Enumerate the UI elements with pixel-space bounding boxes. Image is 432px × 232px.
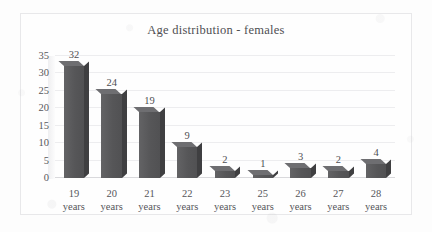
bar-value-label: 4: [373, 147, 378, 158]
y-axis-tick-label: 20: [39, 102, 50, 113]
bar-front-face: [366, 164, 386, 178]
bar-top-face: [96, 89, 122, 94]
bar-group: 125years: [244, 56, 282, 178]
bar-top-face: [58, 61, 84, 66]
bar-group: 223years: [206, 56, 244, 178]
bar-top-face: [285, 163, 311, 168]
bar-front-face: [328, 171, 348, 178]
y-axis-tick-label: 35: [39, 50, 50, 61]
bar-side-face: [349, 167, 354, 178]
bar-front-face: [215, 171, 235, 178]
bar-group: 922years: [168, 56, 206, 178]
bar-top-face: [360, 159, 386, 164]
y-axis-tick-label: 30: [39, 67, 50, 78]
bar-top-face: [171, 142, 197, 147]
y-axis-tick-label: 15: [39, 119, 50, 130]
bar-front-face: [177, 147, 197, 178]
bar[interactable]: 4: [366, 164, 386, 178]
y-axis-tick-label: 10: [39, 137, 50, 148]
bar-front-face: [253, 175, 273, 178]
x-axis-tick-label: 23years: [214, 187, 236, 214]
x-axis-tick-label: 19years: [63, 187, 85, 214]
bar[interactable]: 1: [253, 175, 273, 178]
bar-side-face: [273, 170, 278, 178]
bar[interactable]: 24: [101, 94, 121, 178]
bar-top-face: [209, 166, 235, 171]
bar-side-face: [197, 142, 202, 178]
bar-group: 326years: [282, 56, 320, 178]
bar-group: 428years: [357, 56, 395, 178]
bar-front-face: [139, 112, 159, 178]
bar[interactable]: 2: [215, 171, 235, 178]
bar-value-label: 2: [336, 154, 341, 165]
bar-side-face: [122, 90, 127, 178]
bar[interactable]: 3: [290, 168, 310, 178]
bar-top-face: [247, 170, 273, 175]
bar-side-face: [386, 160, 391, 178]
bar-side-face: [160, 107, 165, 178]
x-axis-tick-label: 21years: [138, 187, 160, 214]
x-axis-tick-label: 28years: [365, 187, 387, 214]
chart-title: Age distribution - females: [21, 23, 411, 38]
chart-frame: Age distribution - females 0510152025303…: [20, 13, 412, 215]
bar-group: 2420years: [93, 56, 131, 178]
bar-front-face: [101, 94, 121, 178]
bar-side-face: [311, 163, 316, 178]
bar-group: 3219years: [55, 56, 93, 178]
bar[interactable]: 32: [64, 66, 84, 178]
x-axis-tick-label: 27years: [327, 187, 349, 214]
bar-value-label: 1: [260, 158, 265, 169]
bar-top-face: [323, 166, 349, 171]
y-axis-tick-label: 25: [39, 84, 50, 95]
bar-value-label: 9: [185, 130, 190, 141]
bar-group: 227years: [319, 56, 357, 178]
bar-value-label: 24: [106, 77, 117, 88]
y-axis-tick-label: 0: [44, 172, 49, 183]
plot-area: 05101520253035 3219years2420years1921yea…: [55, 56, 395, 178]
y-axis-tick-label: 5: [44, 154, 49, 165]
bar-value-label: 3: [298, 151, 303, 162]
bar-group: 1921years: [131, 56, 169, 178]
bar-side-face: [235, 167, 240, 178]
bar-top-face: [134, 107, 160, 112]
x-axis-tick-label: 25years: [252, 187, 274, 214]
plot-floor-shading: [48, 56, 55, 179]
bar-front-face: [290, 168, 310, 178]
bar-value-label: 32: [69, 49, 80, 60]
bar[interactable]: 2: [328, 171, 348, 178]
x-axis-tick-label: 26years: [289, 187, 311, 214]
x-axis-tick-label: 22years: [176, 187, 198, 214]
bar[interactable]: 19: [139, 112, 159, 178]
bar-series: 3219years2420years1921years922years223ye…: [55, 56, 395, 178]
bar-front-face: [64, 66, 84, 178]
bar-value-label: 2: [222, 154, 227, 165]
x-axis-tick-label: 20years: [101, 187, 123, 214]
bar-side-face: [84, 62, 89, 178]
bar-value-label: 19: [144, 95, 155, 106]
bar[interactable]: 9: [177, 147, 197, 178]
